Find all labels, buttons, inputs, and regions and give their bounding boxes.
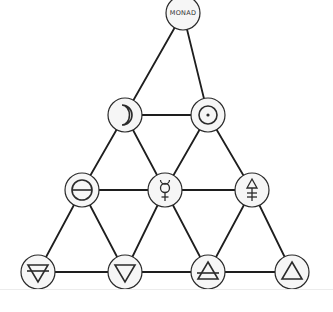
node-water: [108, 255, 142, 289]
monad-label: MONAD: [170, 9, 197, 17]
node-sulfur: [235, 173, 269, 207]
node-monad: MONAD: [166, 0, 200, 30]
node-mercury: [148, 173, 182, 207]
edge-monad-moon: [125, 13, 183, 115]
edges: [38, 13, 292, 272]
node-earth: [21, 255, 55, 289]
bottom-separator: [0, 289, 333, 290]
node-fire: [275, 255, 309, 289]
node-moon: [108, 98, 142, 132]
alchemical-triangle-diagram: MONAD: [0, 0, 333, 312]
node-sun: [191, 98, 225, 132]
node-air: [191, 255, 225, 289]
node-salt: [65, 173, 99, 207]
